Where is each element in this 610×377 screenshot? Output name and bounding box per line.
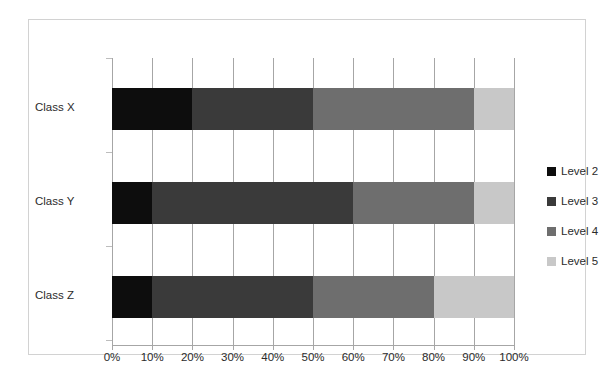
bar-segment[interactable]: [313, 276, 434, 318]
bar-row: [112, 182, 514, 224]
legend-swatch-icon: [547, 167, 556, 176]
x-axis-label: 50%: [301, 351, 324, 363]
legend-label: Level 5: [561, 255, 598, 267]
x-axis-tick: [514, 345, 515, 350]
bar-segment[interactable]: [353, 182, 474, 224]
x-axis-tick: [434, 345, 435, 350]
x-axis-tick: [112, 345, 113, 350]
y-axis-tick: [106, 58, 112, 59]
legend-item[interactable]: Level 2: [547, 156, 610, 186]
legend-item[interactable]: Level 4: [547, 216, 610, 246]
y-axis-labels: Class XClass YClass Z: [59, 58, 107, 345]
x-axis-label: 20%: [181, 351, 204, 363]
bar-segment[interactable]: [434, 276, 514, 318]
x-axis-tick: [273, 345, 274, 350]
y-axis-tick: [106, 246, 112, 247]
bar-segment[interactable]: [474, 88, 514, 130]
y-axis-label: Class X: [35, 101, 107, 113]
x-axis-label: 80%: [422, 351, 445, 363]
legend-item[interactable]: Level 3: [547, 186, 610, 216]
x-axis-tick: [192, 345, 193, 350]
bar-segment[interactable]: [112, 182, 152, 224]
bar-segment[interactable]: [112, 276, 152, 318]
chart-frame: Class XClass YClass Z 0%10%20%30%40%50%6…: [28, 19, 586, 355]
bar-row: [112, 276, 514, 318]
y-axis-tick: [106, 340, 112, 341]
y-axis-label: Class Y: [35, 195, 107, 207]
bar-segment[interactable]: [192, 88, 313, 130]
x-axis-tick: [393, 345, 394, 350]
x-axis-tick: [474, 345, 475, 350]
x-axis-label: 30%: [221, 351, 244, 363]
bar-segment[interactable]: [313, 88, 474, 130]
x-axis-label: 0%: [104, 351, 121, 363]
legend-label: Level 2: [561, 165, 598, 177]
bar-segment[interactable]: [474, 182, 514, 224]
x-axis-tick: [233, 345, 234, 350]
x-axis-label: 10%: [141, 351, 164, 363]
plot-area: [112, 58, 514, 345]
x-axis-tick: [152, 345, 153, 350]
bar-segment[interactable]: [152, 182, 353, 224]
y-axis-tick: [106, 152, 112, 153]
legend-swatch-icon: [547, 197, 556, 206]
legend-swatch-icon: [547, 227, 556, 236]
x-axis-tick: [353, 345, 354, 350]
legend-swatch-icon: [547, 257, 556, 266]
y-axis-label: Class Z: [35, 289, 107, 301]
bar-row: [112, 88, 514, 130]
x-axis-label: 100%: [499, 351, 528, 363]
x-axis-tick: [313, 345, 314, 350]
bar-segment[interactable]: [152, 276, 313, 318]
x-axis-label: 60%: [342, 351, 365, 363]
x-axis-label: 70%: [382, 351, 405, 363]
legend-item[interactable]: Level 5: [547, 246, 610, 276]
bar-segment[interactable]: [112, 88, 192, 130]
chart-legend: Level 2Level 3Level 4Level 5: [547, 156, 610, 276]
gridline-100: [514, 58, 515, 345]
legend-label: Level 4: [561, 225, 598, 237]
x-axis-label: 90%: [462, 351, 485, 363]
legend-label: Level 3: [561, 195, 598, 207]
x-axis-label: 40%: [261, 351, 284, 363]
